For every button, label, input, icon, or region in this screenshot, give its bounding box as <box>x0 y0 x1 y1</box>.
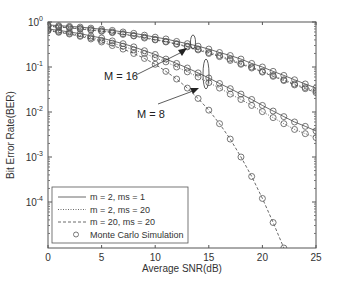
monte-carlo-marker <box>174 76 180 82</box>
y-tick-label: 10-3 <box>26 150 43 163</box>
y-tick-label: 10-2 <box>26 105 43 118</box>
legend-label: Monte Carlo Simulation <box>90 230 184 240</box>
legend: m = 2, ms = 1m = 2, ms = 20m = 20, ms = … <box>52 187 188 243</box>
y-tick-label: 10-1 <box>26 60 43 73</box>
monte-carlo-marker <box>195 95 201 101</box>
monte-carlo-marker <box>184 85 190 91</box>
monte-carlo-marker <box>217 85 223 91</box>
monte-carlo-marker <box>249 102 255 108</box>
series-line <box>45 23 319 95</box>
legend-item: Monte Carlo Simulation <box>74 230 184 240</box>
annotation-layer: M = 16M = 8 <box>104 35 209 120</box>
m16-ellipse <box>191 35 196 49</box>
y-axis-label: Bit Error Rate(BER) <box>5 91 16 179</box>
annotation-m16: M = 16 <box>104 70 138 82</box>
arrow-icon <box>190 88 199 94</box>
monte-carlo-marker <box>292 275 298 281</box>
annotation-m8: M = 8 <box>137 108 165 120</box>
y-tick-label: 10-4 <box>26 195 43 208</box>
monte-carlo-marker <box>131 50 137 56</box>
legend-label: m = 2, ms = 1 <box>90 192 145 202</box>
x-tick-label: 10 <box>150 252 162 263</box>
legend-label: m = 2, ms = 20 <box>90 205 150 215</box>
x-tick-label: 0 <box>45 252 51 263</box>
monte-carlo-marker <box>270 220 276 226</box>
x-tick-label: 25 <box>310 252 322 263</box>
monte-carlo-marker <box>302 131 308 137</box>
x-tick-label: 5 <box>99 252 105 263</box>
y-tick-label: 100 <box>28 15 43 28</box>
x-tick-label: 15 <box>203 252 215 263</box>
legend-label: m = 20, ms = 20 <box>90 217 155 227</box>
monte-carlo-marker <box>184 69 190 75</box>
series-line <box>45 22 319 91</box>
monte-carlo-marker <box>174 64 180 70</box>
ber-chart: M = 16M = 8 051015202510010-110-210-310-… <box>0 0 338 287</box>
monte-carlo-marker <box>227 136 233 142</box>
x-tick-label: 20 <box>257 252 269 263</box>
monte-carlo-marker <box>259 109 265 115</box>
x-axis-label: Average SNR(dB) <box>142 263 222 274</box>
monte-carlo-marker <box>206 107 212 113</box>
arrow-icon <box>178 48 187 56</box>
